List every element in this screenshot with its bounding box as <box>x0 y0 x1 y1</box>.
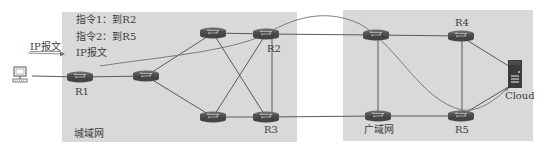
link-r2-wa <box>266 34 376 35</box>
computer-icon <box>10 66 30 86</box>
wan-region-label: 广域网 <box>364 124 394 135</box>
router-r1 <box>66 71 94 83</box>
router-r2-label: R2 <box>267 43 281 54</box>
cloud-server-node <box>508 60 522 88</box>
computer-node <box>10 66 30 86</box>
instruction-2-label: 指令2：到R5 <box>76 31 136 42</box>
router-r1-label: R1 <box>75 86 89 97</box>
router-wan-a <box>362 29 390 41</box>
link-r3-wb <box>266 116 378 117</box>
router-r3 <box>252 111 280 123</box>
router-icon <box>66 71 94 83</box>
router-metro-b <box>199 27 227 39</box>
router-wan-b <box>364 110 392 122</box>
instruction-1-label: 指令1：到R2 <box>76 14 136 25</box>
ip-packet-inner-label: IP报文 <box>76 47 107 58</box>
ip-packet-arrowhead <box>60 52 65 57</box>
metro-region-label: 城域网 <box>74 128 104 139</box>
cloud-label: Cloud <box>505 90 535 101</box>
ip-packet-outer-label: IP报文 <box>30 41 61 52</box>
router-r3-label: R3 <box>264 124 278 135</box>
router-r4 <box>447 30 475 42</box>
router-metro-a <box>132 70 160 82</box>
router-r2 <box>252 28 280 40</box>
router-icon <box>132 70 160 82</box>
router-r5 <box>447 110 475 122</box>
router-metro-c <box>199 111 227 123</box>
router-icon <box>252 28 280 40</box>
router-icon <box>364 110 392 122</box>
ip-packet-arrow-line <box>28 53 62 54</box>
router-icon <box>199 111 227 123</box>
router-icon <box>447 110 475 122</box>
router-r4-label: R4 <box>455 17 469 28</box>
server-icon <box>508 60 522 88</box>
router-icon <box>447 30 475 42</box>
router-icon <box>199 27 227 39</box>
router-icon <box>252 111 280 123</box>
router-icon <box>362 29 390 41</box>
router-r5-label: R5 <box>455 124 469 135</box>
